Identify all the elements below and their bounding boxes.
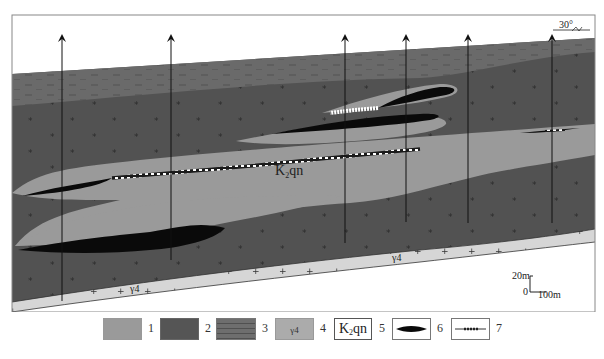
legend-swatch-mudstone — [160, 318, 199, 340]
svg-text:100m: 100m — [538, 289, 561, 300]
legend-swatch-siltstone — [216, 318, 256, 340]
geological-cross-section: * * + — [0, 0, 604, 312]
legend-swatch-ore-body — [392, 318, 431, 340]
ore-lens-icon — [393, 319, 430, 339]
legend-swatch-formation: K2qn — [334, 318, 372, 340]
legend-swatch-granite: γ4 — [275, 318, 314, 340]
svg-text:30°: 30° — [559, 19, 573, 30]
mineralized-zone-icon — [452, 319, 489, 339]
legend: 1 2 3 γ4 4 K2qn 5 6 7 — [0, 312, 604, 352]
svg-text:0: 0 — [523, 286, 528, 297]
granite-label-left: γ4 — [129, 283, 139, 294]
formation-label: K2qn — [275, 163, 303, 180]
legend-swatch-mineralized-zone — [451, 318, 490, 340]
granite-label-right: γ4 — [391, 252, 401, 263]
legend-swatch-sandstone — [103, 318, 142, 340]
svg-text:20m: 20m — [512, 270, 530, 281]
